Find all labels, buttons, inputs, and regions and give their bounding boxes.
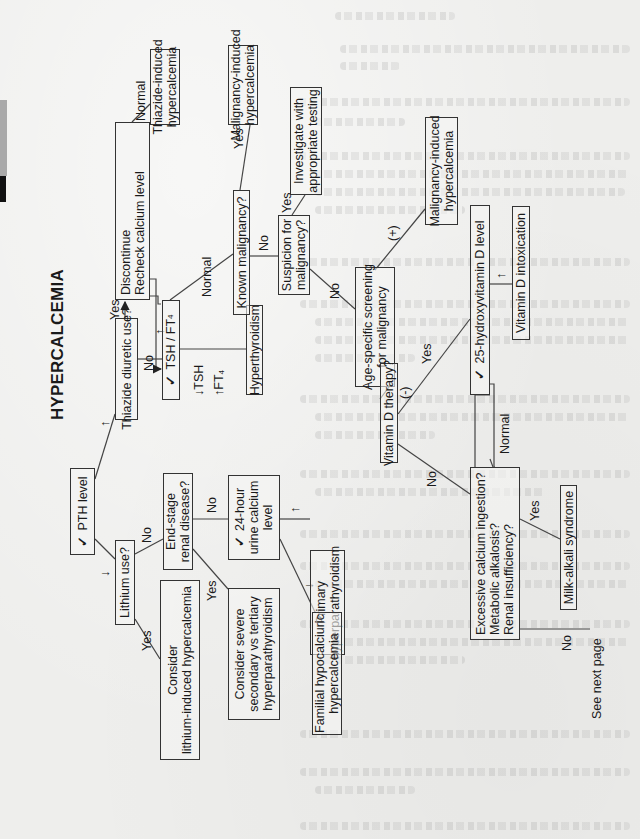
arrow-down-icon: ↓	[192, 390, 206, 396]
node-label-line: lithium-induced hypercalcemia	[180, 586, 194, 754]
edge-label-yes: Yes	[108, 300, 122, 320]
node-discontinue-recheck: Discontinue Recheck calcium level	[115, 122, 150, 300]
node-end-stage-renal-disease: End-stage renal disease?	[163, 473, 193, 570]
edge-label-no: No	[425, 471, 439, 487]
node-lithium-use: Lithium use?	[115, 540, 135, 625]
node-label: Hyperthyroidism	[248, 305, 262, 395]
node-label: Vitamin D therapy?	[382, 360, 396, 466]
edge-label-yes: Yes	[280, 193, 294, 213]
node-label-line: End-stage	[164, 493, 178, 550]
node-label-line: secondary vs tertiary	[247, 596, 261, 711]
arrow-up-icon: ↑	[494, 273, 508, 279]
node-label-line: hypercalcemia	[327, 633, 341, 714]
edge-label-no: No	[257, 235, 271, 251]
node-label-line: Suspicion for	[280, 219, 294, 291]
edge-label-tsh: TSH	[192, 365, 206, 390]
node-vitamin-d-therapy: Vitamin D therapy?	[380, 363, 398, 463]
node-tsh-ft4: ✓ TSH / FT4	[162, 300, 180, 400]
node-consider-severe-hyperparathyroidism: Consider severe secondary vs tertiary hy…	[228, 588, 280, 720]
node-label: Lithium use?	[118, 547, 132, 618]
arrow-up-icon: ↑	[98, 421, 112, 427]
node-label-line: Malignancy-induced	[428, 115, 442, 226]
node-label-line: Renal insufficiency?	[502, 524, 516, 635]
node-label-line: for malignancy	[375, 286, 389, 367]
node-label-line: Metabolic alkalosis?	[488, 523, 502, 635]
node-label-line: hypercalcemia	[243, 45, 257, 126]
edge-label-positive: (+)	[386, 225, 400, 241]
edge-label-yes: Yes	[140, 631, 154, 651]
edge-label-normal: Normal	[200, 257, 214, 297]
node-malignancy-induced-hypercalcemia: Malignancy-induced hypercalcemia	[228, 45, 258, 125]
node-label-line: Discontinue	[119, 230, 133, 295]
node-label-text: 24-hour	[233, 488, 247, 531]
edge-label-no: No	[142, 355, 156, 371]
node-label-line: Consider	[166, 645, 180, 695]
node-vitamin-d-intoxication: Vitamin D intoxication	[512, 206, 530, 340]
edge-label-normal: Normal	[134, 81, 148, 121]
ft4-high-label: ↑FT4	[212, 370, 229, 396]
edge-label-no: No	[205, 497, 219, 513]
node-label-line: Consider severe	[233, 609, 247, 700]
subscript: 4	[217, 370, 226, 374]
node-suspicion-for-malignancy: Suspicion for malignancy?	[278, 215, 310, 295]
node-pth-level: ✓ PTH level	[70, 468, 95, 555]
node-label: TSH / FT	[164, 319, 178, 370]
node-malignancy-induced-hypercalcemia-screening: Malignancy-induced hypercalcemia	[425, 117, 458, 225]
edge-label-yes: Yes	[420, 344, 434, 364]
edge-label-ft4: FT	[212, 374, 226, 389]
check-icon: ✓	[76, 536, 90, 547]
see-next-page-link[interactable]: See next page	[590, 638, 604, 719]
node-label-line: Thiazide-induced	[151, 39, 165, 134]
subscript: 4	[164, 314, 178, 318]
node-excessive-calcium-ingestion: Excessive calcium ingestion? Metabolic a…	[470, 467, 520, 640]
check-icon: ✓	[232, 536, 247, 547]
hypercalcemia-flowchart: HYPERCALCEMIA ✓ PTH level ↓ ↑ Lithium us…	[0, 0, 640, 839]
node-label-line: urine calcium	[247, 481, 261, 555]
node-label-line: Investigate with	[292, 98, 306, 184]
node-label-line: Malignancy-induced	[229, 29, 243, 140]
node-label: Thiazide diuretic use?	[120, 308, 134, 430]
edge-label-yes: Yes	[205, 581, 219, 601]
node-label-line: Excessive calcium ingestion?	[474, 472, 488, 635]
edge-label-no: No	[140, 527, 154, 543]
node-label-line: Recheck calcium level	[133, 171, 147, 295]
node-label-line: Age-specific screening	[361, 264, 375, 390]
node-label-line: Familial hypocalciuric	[313, 614, 327, 733]
edge-label-no: No	[560, 635, 574, 651]
edge-label-negative: (-)	[398, 387, 412, 400]
node-label-line: renal disease?	[178, 481, 192, 562]
node-thiazide-diuretic-use: Thiazide diuretic use?	[115, 318, 138, 420]
node-thiazide-induced-hypercalcemia: Thiazide-induced hypercalcemia	[150, 49, 180, 125]
arrow-up-icon: ↑	[212, 390, 226, 396]
node-label-line: hypercalcemia	[442, 131, 456, 212]
arrow-up-icon: ↑	[288, 507, 302, 513]
node-label-line: appropriate testing	[306, 89, 320, 193]
check-icon: ✓	[164, 375, 178, 386]
flowchart-title: HYPERCALCEMIA	[48, 269, 68, 420]
edge-label-yes: Yes	[528, 501, 542, 521]
node-label: Vitamin D intoxication	[514, 213, 528, 333]
node-label-line: level	[261, 505, 275, 531]
edge-label-normal: Normal	[498, 414, 512, 454]
check-icon: ✓	[473, 369, 487, 380]
node-label-line: ✓24-hour	[233, 488, 247, 547]
node-label: PTH level	[76, 476, 90, 530]
edge-label-no: No	[328, 283, 342, 299]
node-familial-hypocalciuric-hypercalcemia: Familial hypocalciuric hypercalcemia	[312, 612, 342, 735]
node-label-line: malignancy?	[294, 220, 308, 290]
node-label: 25-hydroxyvitamin D level	[473, 220, 487, 363]
node-label-line: hyperparathyroidism	[261, 597, 275, 710]
node-24-hour-urine-calcium: ✓24-hour urine calcium level	[228, 475, 280, 560]
tsh-low-label: ↓TSH	[192, 365, 206, 396]
node-label: Milk-alkali syndrome	[562, 491, 576, 604]
node-investigate-appropriate-testing: Investigate with appropriate testing	[290, 87, 322, 195]
node-milk-alkali-syndrome: Milk-alkali syndrome	[560, 485, 577, 610]
node-known-malignancy: Known malignancy?	[233, 190, 250, 315]
node-label-line: hypercalcemia	[165, 47, 179, 128]
node-hyperthyroidism: Hyperthyroidism	[246, 305, 263, 395]
arrow-down-icon: ↓	[98, 571, 112, 577]
node-label: Known malignancy?	[235, 197, 249, 309]
node-consider-lithium-induced: Consider lithium-induced hypercalcemia	[160, 580, 200, 760]
node-25-hydroxyvitamin-d-level: ✓ 25-hydroxyvitamin D level	[470, 205, 490, 395]
